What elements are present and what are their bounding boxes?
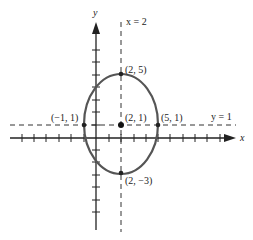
- point-bottom: [119, 171, 124, 176]
- point-right: [156, 123, 161, 128]
- point-top: [119, 72, 124, 77]
- point-center-label: (2, 1): [125, 112, 147, 124]
- point-top-label: (2, 5): [125, 64, 147, 76]
- y-axis-arrow-icon: [92, 22, 100, 34]
- x-axis: [10, 134, 236, 142]
- x-axis-label: x: [239, 132, 245, 143]
- point-left: [82, 123, 87, 128]
- x-axis-arrow-icon: [224, 134, 236, 142]
- point-right-label: (5, 1): [161, 112, 183, 124]
- vertical-guide-label: x = 2: [126, 16, 147, 27]
- y-axis: [92, 22, 100, 230]
- y-axis-label: y: [92, 7, 98, 18]
- point-left-label: (−1, 1): [51, 112, 78, 124]
- ellipse-diagram: y x x = 2 y = 1 (2, 5) (2, 1) (−1, 1) (5…: [0, 0, 253, 240]
- point-center: [118, 122, 124, 128]
- point-bottom-label: (2, −3): [125, 175, 152, 187]
- horizontal-guide-label: y = 1: [211, 111, 232, 122]
